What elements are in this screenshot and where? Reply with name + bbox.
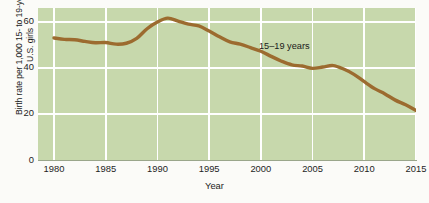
chart-figure: Birth rate per 1,000 15- to 19-year-old … [0,0,429,203]
plot-area [38,8,416,160]
y-tick-0: 0 [10,154,34,165]
y-tick-20: 20 [10,107,34,118]
series-line-0 [54,18,416,110]
x-tick-2000: 2000 [239,163,283,174]
y-tick-60: 60 [10,15,34,26]
x-tick-1995: 1995 [187,163,231,174]
x-tick-1985: 1985 [84,163,128,174]
plot-inner [38,8,416,160]
x-axis-title: Year [0,180,429,191]
x-tick-2010: 2010 [342,163,386,174]
y-tick-40: 40 [10,61,34,72]
x-tick-1980: 1980 [32,163,76,174]
series-line-layer [38,8,416,160]
x-tick-2015: 2015 [394,163,429,174]
series-annotation-15-19-years: 15–19 years [259,41,310,51]
x-tick-1990: 1990 [135,163,179,174]
x-axis-baseline [38,160,417,161]
x-tick-2005: 2005 [291,163,335,174]
